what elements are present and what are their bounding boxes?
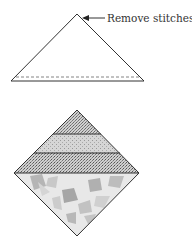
triangle-unit: [11, 14, 144, 81]
arrow-icon: [82, 15, 105, 21]
diagram-canvas: Remove stitches.: [0, 0, 192, 249]
stripe-middle: [0, 134, 192, 154]
stripe-bottom: [0, 153, 192, 174]
mottled-triangle: [0, 173, 192, 243]
pieced-square-on-point: [0, 105, 192, 243]
stripe-top: [0, 105, 192, 135]
remove-stitches-label: Remove stitches.: [107, 12, 192, 24]
